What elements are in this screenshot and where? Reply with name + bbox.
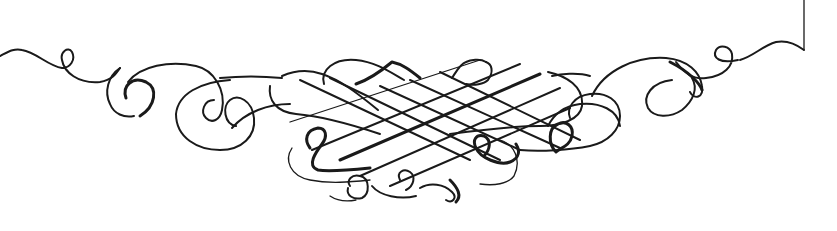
left-scroll-curls (125, 64, 290, 150)
lower-center-loops (289, 128, 519, 202)
left-tail-flourish (0, 49, 134, 116)
right-tail-flourish (676, 41, 804, 78)
central-lattice-knot (270, 60, 590, 186)
calligraphic-flourish-ornament (0, 0, 837, 231)
